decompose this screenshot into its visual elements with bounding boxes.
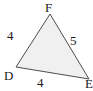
- side-length-label-de: 4: [37, 76, 44, 89]
- triangle-shape: [16, 14, 89, 79]
- vertex-label-e: E: [85, 77, 93, 90]
- side-length-label-fe: 5: [70, 34, 77, 47]
- vertex-label-d: D: [4, 69, 13, 82]
- side-length-label-df: 4: [7, 29, 14, 42]
- vertex-label-f: F: [45, 1, 52, 14]
- triangle-figure: F D E 4 5 4: [0, 0, 93, 91]
